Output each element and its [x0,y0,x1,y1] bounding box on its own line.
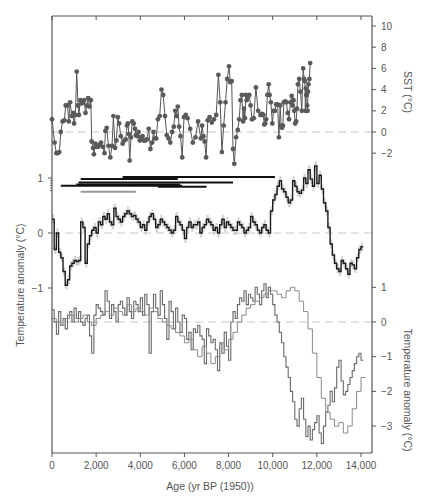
sst-marker [201,134,206,139]
sst-marker [220,150,225,155]
sst-marker [151,130,156,135]
sst-marker [261,113,266,118]
sst-marker [297,77,302,82]
sst-marker [294,119,299,124]
sst-marker [266,82,271,87]
sst-marker [303,79,308,84]
middle-tick-label: 1 [37,173,43,184]
x-tick-label: 12,000 [302,460,333,471]
sst-tick-label: 6 [381,63,387,74]
middle-tick-label: 0 [37,228,43,239]
sst-marker [214,113,219,118]
sst-marker [223,100,228,105]
sst-marker [264,117,269,122]
sst-marker [185,116,190,121]
sst-marker [196,119,201,124]
sst-marker [140,134,145,139]
sst-marker [174,114,179,119]
sst-marker [200,123,205,128]
sst-tick-label: 4 [381,84,387,95]
sst-marker [57,150,62,155]
sst-marker [161,93,166,98]
sst-marker [159,87,164,92]
sst-marker [243,116,248,121]
sst-marker [136,130,141,135]
bottom-tick-label: 1 [381,282,387,293]
sst-marker [256,108,261,113]
sst-marker [87,104,92,109]
x-tick-label: 2,000 [84,460,109,471]
sst-marker [235,127,240,132]
sst-tick-label: 8 [381,42,387,53]
bottom-right-axis-title: Temperature anomaly (°C) [402,328,414,451]
sst-marker [296,82,301,87]
x-tick-label: 0 [49,460,55,471]
sst-marker [270,121,275,126]
sst-marker [216,72,221,77]
sst-marker [83,111,88,116]
sst-marker [170,130,175,135]
sst-marker [177,124,182,129]
sst-marker [308,61,313,66]
sst-marker [178,134,183,139]
sst-marker [306,82,311,87]
sst-marker [157,114,162,119]
sst-marker [111,114,116,119]
sst-marker [254,85,259,90]
sst-marker [150,140,155,145]
sst-marker [77,113,82,118]
sst-marker [173,108,178,113]
bottom-series-2 [52,287,365,433]
sst-marker [154,136,159,141]
sst-marker [123,137,128,142]
sst-marker [145,137,150,142]
sst-marker [166,136,171,141]
sst-marker [175,104,180,109]
top-right-axis-title: SST (°C) [402,71,414,113]
sst-marker [277,135,282,140]
sst-marker [263,121,268,126]
sst-marker [234,135,239,140]
sst-marker [212,117,217,122]
sst-marker [301,66,306,71]
sst-marker [148,147,153,152]
bottom-tick-label: 0 [381,317,387,328]
sst-marker [204,155,209,160]
x-tick-label: 14,000 [346,460,377,471]
sst-marker [92,152,97,157]
sst-marker [99,140,104,145]
sst-marker [289,94,294,99]
sst-marker [190,140,195,145]
sst-marker [202,139,207,144]
sst-marker [113,146,118,151]
sst-marker [104,125,109,130]
sst-marker [100,144,105,149]
sst-marker [281,123,286,128]
sst-tick-label: 2 [381,105,387,116]
sst-marker [62,118,67,123]
sst-marker [193,135,198,140]
sst-marker [108,155,113,160]
x-axis-title: Age (yr BP (1950)) [166,480,253,492]
sst-marker [291,98,296,103]
sst-marker [287,117,292,122]
sst-marker [242,106,247,111]
sst-marker [188,126,193,131]
sst-marker [251,116,256,121]
sst-marker [207,115,212,120]
sst-marker [66,119,71,124]
sst-marker [267,93,272,98]
sst-marker [295,106,300,111]
sst-tick-label: 0 [381,127,387,138]
sst-marker [278,103,283,108]
x-tick-label: 4,000 [128,460,153,471]
left-axis-title: Temperature anomaly (°C) [14,223,26,346]
sst-marker [306,89,311,94]
sst-marker [305,103,310,108]
sst-marker [180,155,185,160]
sst-tick-label: −2 [381,148,393,159]
sst-marker [273,108,278,113]
sst-marker [115,115,120,120]
sst-marker [305,108,310,113]
sst-marker [88,98,93,103]
